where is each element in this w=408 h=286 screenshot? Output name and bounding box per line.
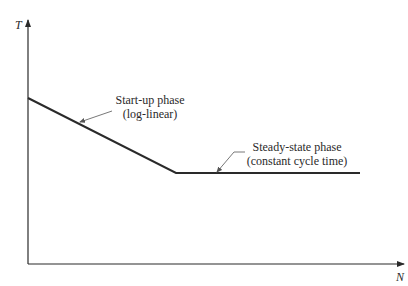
steady-leader-arrow-2 [217, 152, 234, 172]
steady-line2: (constant cycle time) [246, 154, 348, 168]
y-axis-label: T [15, 18, 22, 33]
startup-line1: Start-up phase [110, 93, 190, 107]
steady-annotation: Steady-state phase (constant cycle time) [246, 140, 348, 168]
startup-leader-arrow [80, 111, 112, 122]
startup-line2: (log-linear) [110, 107, 190, 121]
steady-line1: Steady-state phase [246, 140, 348, 154]
x-axis-label: N [396, 270, 404, 285]
startup-annotation: Start-up phase (log-linear) [110, 93, 190, 121]
